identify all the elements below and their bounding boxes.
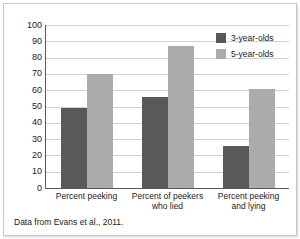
legend-item: 3-year-olds — [216, 33, 274, 43]
y-axis-tick-label: 100 — [8, 21, 42, 30]
bar — [61, 108, 87, 188]
y-axis-tick-label: 10 — [8, 167, 42, 176]
bar — [142, 97, 168, 188]
legend-swatch-icon — [216, 49, 226, 59]
bar — [223, 146, 249, 188]
y-axis-tick-label: 30 — [8, 135, 42, 144]
bar-group — [46, 25, 127, 188]
x-axis-category-label-line: Percent peeking — [208, 191, 289, 201]
bar — [168, 46, 194, 188]
y-axis-tick-label: 0 — [8, 184, 42, 193]
source-note: Data from Evans et al., 2011. — [14, 217, 123, 227]
y-axis-tick-label: 50 — [8, 102, 42, 111]
y-axis-tick-label: 60 — [8, 86, 42, 95]
gridline — [46, 188, 289, 189]
x-axis-category-label: Percent peeking — [46, 191, 127, 201]
x-axis-category-label-line: and lying — [208, 201, 289, 211]
bar-group — [127, 25, 208, 188]
y-axis-tick-label: 90 — [8, 37, 42, 46]
bar — [87, 74, 113, 188]
x-axis-category-label: Percent of peekerswho lied — [127, 191, 208, 211]
figure-container: 0102030405060708090100 3-year-olds5-year… — [3, 3, 297, 236]
y-axis-tick-label: 70 — [8, 69, 42, 78]
x-axis-category-label: Percent peekingand lying — [208, 191, 289, 211]
chart-legend: 3-year-olds5-year-olds — [216, 33, 274, 65]
y-axis-tick-label: 80 — [8, 53, 42, 62]
legend-label: 5-year-olds — [231, 49, 274, 59]
x-axis-category-label-line: who lied — [127, 201, 208, 211]
y-axis-tick-label: 40 — [8, 118, 42, 127]
legend-item: 5-year-olds — [216, 49, 274, 59]
legend-label: 3-year-olds — [231, 33, 274, 43]
legend-swatch-icon — [216, 33, 226, 43]
x-axis-category-label-line: Percent of peekers — [127, 191, 208, 201]
y-axis-tick-label: 20 — [8, 151, 42, 160]
x-axis-category-label-line: Percent peeking — [46, 191, 127, 201]
y-axis-tick-labels: 0102030405060708090100 — [4, 4, 42, 237]
bar — [249, 89, 275, 188]
